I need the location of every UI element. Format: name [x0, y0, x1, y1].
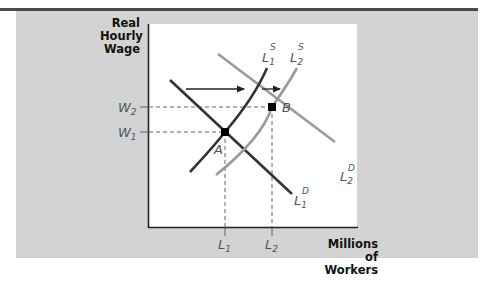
demand-curve-l2d	[218, 54, 335, 142]
point-a-label: A	[213, 142, 223, 157]
w1-label: W1	[118, 125, 137, 142]
l1d-sup: D	[302, 186, 309, 196]
l1-label: L1	[218, 237, 231, 254]
l1s-label: L1	[262, 50, 275, 67]
point-b-label: B	[282, 100, 291, 115]
l2s-sup: S	[298, 42, 304, 52]
equilibrium-point-a	[221, 128, 229, 136]
l1s-sup: S	[270, 42, 276, 52]
labor-market-chart: W2 W1 L1 L2 A B L1 S L2 S L1 D L2 D	[0, 0, 490, 289]
guide-lines	[149, 107, 272, 227]
w2-label: W2	[118, 100, 137, 117]
l2s-label: L2	[290, 50, 303, 67]
l2-label: L2	[265, 237, 278, 254]
equilibrium-point-b	[268, 103, 276, 111]
l2d-sup: D	[348, 163, 355, 173]
